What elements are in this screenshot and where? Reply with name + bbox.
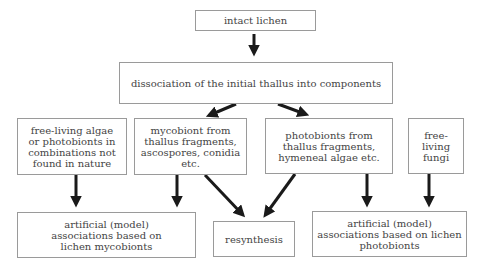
node-artificial-photobionts: artificial (model) associations based on… xyxy=(312,211,467,257)
flowchart: intact lichen dissociation of the initia… xyxy=(0,0,481,267)
node-label: mycobiont from thallus fragments, ascosp… xyxy=(138,125,243,169)
node-free-living-algae: free-living algae or photobionts in comb… xyxy=(17,118,127,175)
arrow-dissociation-to-mycobiont xyxy=(210,104,236,115)
arrow-dissociation-to-photobionts xyxy=(278,104,305,114)
node-label: artificial (model) associations based on… xyxy=(36,219,177,252)
node-intact-lichen: intact lichen xyxy=(195,10,316,31)
node-resynthesis: resynthesis xyxy=(213,221,295,257)
arrow-photobionts-to-resynthesis xyxy=(266,174,295,214)
node-label: free-living fungi xyxy=(419,130,453,163)
node-mycobiont: mycobiont from thallus fragments, ascosp… xyxy=(134,118,247,175)
node-label: artificial (model) associations based on… xyxy=(317,218,462,251)
node-photobionts: photobionts from thallus fragments, hyme… xyxy=(265,118,393,174)
node-label: dissociation of the initial thallus into… xyxy=(131,78,381,89)
node-label: photobionts from thallus fragments, hyme… xyxy=(274,130,384,163)
node-label: resynthesis xyxy=(225,234,283,245)
node-label: intact lichen xyxy=(224,15,287,26)
node-label: free-living algae or photobionts in comb… xyxy=(24,125,120,169)
node-artificial-mycobionts: artificial (model) associations based on… xyxy=(17,212,196,258)
node-dissociation: dissociation of the initial thallus into… xyxy=(119,62,393,104)
arrow-mycobiont-to-resynthesis xyxy=(205,175,242,214)
node-free-living-fungi: free-living fungi xyxy=(408,118,464,174)
